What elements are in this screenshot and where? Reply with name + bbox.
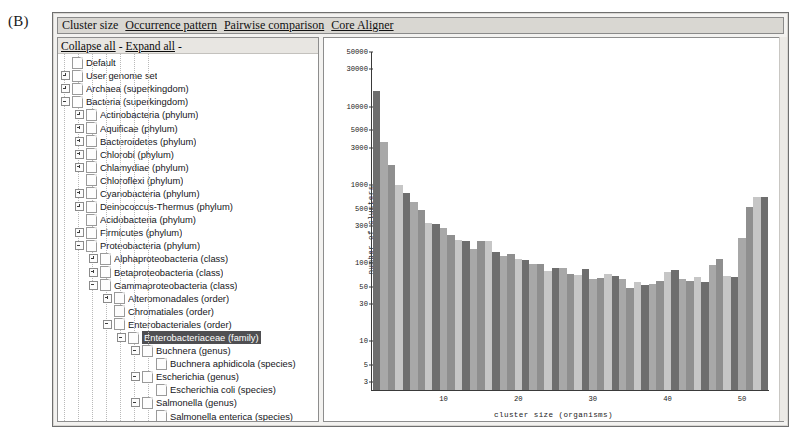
tree-node[interactable]: Proteobacteria (phylum): [58, 239, 318, 252]
tree-node[interactable]: Enterobacteriales (order): [58, 318, 318, 331]
tree-node[interactable]: Bacteria (superkingdom): [58, 95, 318, 108]
tree-node-label: Enterobacteriaceae (family): [142, 331, 261, 344]
tree-node[interactable]: Cyanobacteria (phylum): [58, 187, 318, 200]
tree-node-label: Alteromonadales (order): [128, 292, 229, 305]
document-icon: [100, 279, 111, 291]
expand-plus-icon[interactable]: [89, 268, 98, 277]
tree-node[interactable]: Chlamydiae (phylum): [58, 161, 318, 174]
document-icon: [86, 240, 97, 252]
collapse-all-link[interactable]: Collapse all: [61, 40, 116, 52]
tree-node[interactable]: Deinococcus-Thermus (phylum): [58, 200, 318, 213]
histogram-bar: [619, 279, 626, 390]
tree-node[interactable]: Chloroflexi (phylum): [58, 174, 318, 187]
histogram-bar: [589, 279, 596, 390]
histogram-bar: [716, 259, 723, 390]
expand-plus-icon[interactable]: [61, 84, 70, 93]
tree-node-label: Buchnera (genus): [156, 344, 231, 357]
histogram-bar: [761, 197, 768, 390]
tree-node[interactable]: Enterobacteriaceae (family): [58, 331, 318, 344]
expand-plus-icon[interactable]: [75, 189, 84, 198]
histogram-bar: [656, 281, 663, 390]
tree-node[interactable]: Actinobacteria (phylum): [58, 108, 318, 121]
expand-plus-icon[interactable]: [75, 124, 84, 133]
tree-node-label: Firmicutes (phylum): [100, 226, 182, 239]
histogram-bar: [634, 282, 641, 390]
tab-pairwise-comparison[interactable]: Pairwise comparison: [224, 19, 324, 32]
histogram-bar: [649, 284, 656, 390]
tree-node[interactable]: Salmonella enterica (species): [58, 410, 318, 421]
tree-node[interactable]: Alteromonadales (order): [58, 292, 318, 305]
taxonomy-tree-panel[interactable]: Collapse all - Expand all - DefaultUser …: [57, 37, 319, 422]
window-scrollbar[interactable]: [779, 37, 787, 421]
tab-occurrence-pattern[interactable]: Occurrence pattern: [125, 19, 217, 32]
collapse-minus-icon[interactable]: [75, 241, 84, 250]
collapse-minus-icon[interactable]: [61, 97, 70, 106]
histogram-bar: [544, 271, 551, 390]
collapse-minus-icon[interactable]: [103, 320, 112, 329]
tree-node[interactable]: Buchnera (genus): [58, 344, 318, 357]
tree-node[interactable]: Bacteroidetes (phylum): [58, 135, 318, 148]
tree-scroll-region[interactable]: DefaultUser genome setArchaea (superking…: [58, 54, 318, 421]
tree-node[interactable]: Aquificae (phylum): [58, 121, 318, 134]
tree-node[interactable]: Escherichia coli (species): [58, 383, 318, 396]
tree-node[interactable]: Archaea (superkingdom): [58, 82, 318, 95]
tree-node-label: Bacteria (superkingdom): [86, 95, 188, 108]
tree-node[interactable]: Firmicutes (phylum): [58, 226, 318, 239]
histogram-bar: [425, 223, 432, 390]
tree-node-label: Escherichia coli (species): [170, 383, 276, 396]
document-icon: [86, 148, 97, 160]
expand-plus-icon[interactable]: [75, 228, 84, 237]
collapse-minus-icon[interactable]: [131, 398, 140, 407]
histogram-bar: [559, 268, 566, 390]
tree-node-label: Salmonella (genus): [156, 396, 237, 409]
expand-plus-icon[interactable]: [89, 254, 98, 263]
collapse-minus-icon[interactable]: [117, 333, 126, 342]
tree-node-label: Gammaproteobacteria (class): [114, 279, 237, 292]
document-icon: [114, 305, 125, 317]
document-icon: [86, 214, 97, 226]
expand-plus-icon[interactable]: [75, 137, 84, 146]
histogram-bar: [388, 165, 395, 390]
tree-node[interactable]: Acidobacteria (phylum): [58, 213, 318, 226]
tree-node[interactable]: Betaproteobacteria (class): [58, 266, 318, 279]
document-icon: [156, 410, 167, 421]
tree-node[interactable]: Alphaproteobacteria (class): [58, 252, 318, 265]
tree-node[interactable]: Chromatiales (order): [58, 305, 318, 318]
tree-node[interactable]: Default: [58, 56, 318, 69]
document-icon: [142, 371, 153, 383]
expand-plus-icon[interactable]: [103, 294, 112, 303]
document-icon: [72, 70, 83, 82]
histogram-bar: [671, 270, 678, 390]
tab-cluster-size[interactable]: Cluster size: [62, 19, 118, 32]
histogram-bar: [418, 210, 425, 390]
expand-plus-icon[interactable]: [75, 163, 84, 172]
collapse-minus-icon[interactable]: [131, 346, 140, 355]
expand-all-link[interactable]: Expand all: [125, 40, 175, 52]
document-icon: [156, 384, 167, 396]
collapse-minus-icon[interactable]: [89, 281, 98, 290]
expand-plus-icon[interactable]: [61, 71, 70, 80]
tree-node-label: Salmonella enterica (species): [170, 410, 293, 421]
document-icon: [86, 227, 97, 239]
expand-plus-icon[interactable]: [75, 110, 84, 119]
tree-node[interactable]: Chlorobi (phylum): [58, 148, 318, 161]
collapse-minus-icon[interactable]: [131, 372, 140, 381]
document-icon: [86, 201, 97, 213]
tree-node[interactable]: Salmonella (genus): [58, 396, 318, 409]
histogram-bar: [597, 278, 604, 390]
tree-guide-line: [134, 54, 135, 421]
expand-plus-icon[interactable]: [75, 150, 84, 159]
histogram-bar: [746, 207, 753, 390]
document-icon: [86, 122, 97, 134]
expand-plus-icon[interactable]: [75, 202, 84, 211]
histogram-bar: [477, 241, 484, 390]
tree-node[interactable]: User genome set: [58, 69, 318, 82]
tree-node[interactable]: Escherichia (genus): [58, 370, 318, 383]
tree-node[interactable]: Buchnera aphidicola (species): [58, 357, 318, 370]
histogram-bar: [455, 240, 462, 390]
document-icon: [128, 332, 139, 344]
chart-panel: number of clusters cluster size (organis…: [323, 37, 784, 422]
tree-node[interactable]: Gammaproteobacteria (class): [58, 279, 318, 292]
document-icon: [86, 187, 97, 199]
tab-core-aligner[interactable]: Core Aligner: [331, 19, 393, 32]
